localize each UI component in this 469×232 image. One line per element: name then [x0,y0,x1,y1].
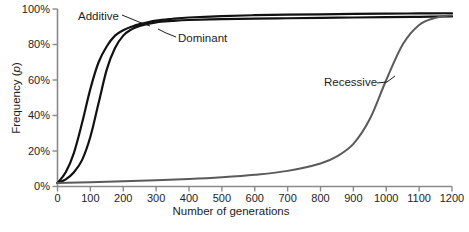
y-axis-title-suffix: ) [10,62,22,66]
series-label-dominant: Dominant [178,32,227,44]
series-line-dominant [58,16,453,182]
y-axis-title-prefix: Frequency ( [10,72,22,133]
x-axis-title: Number of generations [0,205,462,217]
y-axis-title-symbol: p [10,66,22,72]
annotation-leader-lines [122,15,395,83]
series-label-recessive: Recessive [324,76,377,88]
data-series-group [58,13,453,183]
y-tick-label: 0% [6,180,50,192]
x-tick-label: 1200 [429,192,469,204]
y-tick-label: 100% [6,3,50,15]
leader-dominant [158,29,176,37]
y-axis-title: Frequency (p) [10,28,22,168]
series-line-recessive [58,15,453,183]
series-label-additive: Additive [78,10,119,22]
series-line-additive [58,13,453,183]
